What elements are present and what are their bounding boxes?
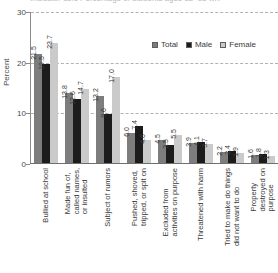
x-category-label: Pushed, shoved, tripped, or spit on bbox=[131, 168, 148, 226]
bar-group: 4.53.55.5 bbox=[155, 12, 186, 163]
y-tick-0 bbox=[26, 164, 30, 165]
bar-value-label: 5.5 bbox=[170, 129, 178, 139]
bar-group: 13.29.617.0 bbox=[93, 12, 124, 163]
y-tick-10 bbox=[26, 113, 30, 114]
x-category: Subject of rumors bbox=[93, 166, 124, 271]
legend-label-female: Female bbox=[229, 40, 256, 49]
bar-group: 21.519.523.7 bbox=[31, 12, 62, 163]
bar-fill bbox=[104, 114, 112, 163]
x-category-label: Subject of rumors bbox=[104, 168, 113, 227]
bar-value-label: 4.5 bbox=[154, 134, 162, 144]
bar-value-label: 1.6 bbox=[247, 149, 255, 159]
bar-fill bbox=[81, 89, 89, 163]
bar-fill bbox=[96, 96, 104, 163]
bar-total[interactable]: 21.5 bbox=[34, 54, 42, 163]
bar-female[interactable]: 1.3 bbox=[267, 156, 275, 163]
y-axis-title: Percent bbox=[2, 58, 11, 86]
bar-value-label: 13.2 bbox=[92, 88, 100, 102]
legend-swatch-female bbox=[220, 42, 226, 48]
bar-value-label: 23.7 bbox=[46, 35, 54, 49]
legend-swatch-male bbox=[186, 42, 192, 48]
bar-total[interactable]: 13.2 bbox=[96, 96, 104, 163]
x-category-label: Excluded from activities on purpose bbox=[161, 168, 178, 236]
bar-male[interactable]: 19.5 bbox=[42, 64, 50, 163]
bar-fill bbox=[42, 64, 50, 163]
bar-value-label: 1.8 bbox=[255, 148, 263, 158]
bar-female[interactable]: 5.5 bbox=[174, 135, 182, 163]
bar-fill bbox=[135, 126, 143, 163]
x-category-label: Property destroyed on purpose bbox=[250, 168, 276, 211]
bar-value-label: 19.5 bbox=[38, 56, 46, 70]
bar-value-label: 3.5 bbox=[162, 139, 170, 149]
y-tick-30 bbox=[26, 12, 30, 13]
bar-male[interactable]: 3.5 bbox=[166, 145, 174, 163]
bar-value-label: 1.9 bbox=[232, 148, 240, 158]
x-category: Made fun of, called names, or insulted bbox=[62, 166, 93, 271]
bar-value-label: 3.9 bbox=[185, 137, 193, 147]
x-category: Pushed, shoved, tripped, or spit on bbox=[124, 166, 155, 271]
x-category-label: Threatened with harm bbox=[197, 168, 206, 241]
x-category-label: Made fun of, called names, or insulted bbox=[65, 168, 91, 214]
bar-group: 6.07.44.6 bbox=[124, 12, 155, 163]
bar-female[interactable]: 4.6 bbox=[143, 140, 151, 163]
y-tick-label-30: 30 bbox=[17, 8, 26, 17]
bar-group: 2.22.41.9 bbox=[216, 12, 247, 163]
bar-value-label: 7.4 bbox=[131, 120, 139, 130]
x-category: Bullied at school bbox=[31, 166, 62, 271]
bar-value-label: 1.3 bbox=[263, 151, 271, 161]
y-tick-label-20: 20 bbox=[17, 58, 26, 67]
y-tick-20 bbox=[26, 63, 30, 64]
bar-fill bbox=[127, 133, 135, 163]
bar-group: 13.812.614.7 bbox=[62, 12, 93, 163]
y-tick-label-10: 10 bbox=[17, 109, 26, 118]
bar-female[interactable]: 17.0 bbox=[112, 77, 120, 163]
x-category: Excluded from activities on purpose bbox=[155, 166, 186, 271]
bar-value-label: 3.7 bbox=[201, 138, 209, 148]
bar-fill bbox=[73, 99, 81, 163]
y-tick-label-0: 0 bbox=[22, 160, 26, 169]
bar-female[interactable]: 23.7 bbox=[50, 43, 58, 163]
bar-value-label: 4.6 bbox=[139, 134, 147, 144]
x-category: Tried to make do things did not want to … bbox=[216, 166, 247, 271]
clipped-title: Indicator 11.1 Percentage of students ag… bbox=[30, 0, 220, 7]
bar-male[interactable]: 9.6 bbox=[104, 114, 112, 163]
bar-female[interactable]: 3.7 bbox=[205, 144, 213, 163]
legend-item-male[interactable]: Male bbox=[186, 40, 212, 49]
bar-group: 1.61.81.3 bbox=[247, 12, 278, 163]
bar-groups: 21.519.523.713.812.614.713.29.617.06.07.… bbox=[31, 12, 278, 163]
legend-item-total[interactable]: Total bbox=[152, 40, 178, 49]
x-axis-category-labels: Bullied at schoolMade fun of, called nam… bbox=[31, 166, 278, 271]
legend-item-female[interactable]: Female bbox=[220, 40, 256, 49]
bar-total[interactable]: 3.9 bbox=[189, 143, 197, 163]
chart-legend: Total Male Female bbox=[152, 40, 256, 49]
bar-total[interactable]: 6.0 bbox=[127, 133, 135, 163]
bar-fill bbox=[34, 54, 42, 163]
x-category-label: Tried to make do things did not want to … bbox=[223, 168, 240, 246]
bar-group: 3.94.13.7 bbox=[185, 12, 216, 163]
bar-fill bbox=[50, 43, 58, 163]
bar-value-label: 9.6 bbox=[100, 109, 108, 119]
bar-value-label: 17.0 bbox=[108, 69, 116, 83]
chart-root: Indicator 11.1 Percentage of students ag… bbox=[0, 0, 278, 273]
bar-value-label: 6.0 bbox=[123, 127, 131, 137]
bar-value-label: 2.2 bbox=[216, 146, 224, 156]
x-axis-line bbox=[30, 163, 278, 164]
legend-label-male: Male bbox=[195, 40, 212, 49]
x-category-label: Bullied at school bbox=[42, 168, 51, 223]
x-category: Property destroyed on purpose bbox=[247, 166, 278, 271]
plot-area: 3020100 21.519.523.713.812.614.713.29.61… bbox=[30, 12, 278, 164]
bar-female[interactable]: 1.9 bbox=[236, 153, 244, 163]
bar-male[interactable]: 7.4 bbox=[135, 126, 143, 163]
x-category: Threatened with harm bbox=[185, 166, 216, 271]
bar-female[interactable]: 14.7 bbox=[81, 89, 89, 163]
legend-label-total: Total bbox=[161, 40, 178, 49]
bar-value-label: 14.7 bbox=[77, 81, 85, 95]
bar-fill bbox=[112, 77, 120, 163]
bar-male[interactable]: 12.6 bbox=[73, 99, 81, 163]
bar-value-label: 4.1 bbox=[193, 136, 201, 146]
bar-value-label: 2.4 bbox=[224, 145, 232, 155]
bar-fill bbox=[174, 135, 182, 163]
legend-swatch-total bbox=[152, 42, 158, 48]
